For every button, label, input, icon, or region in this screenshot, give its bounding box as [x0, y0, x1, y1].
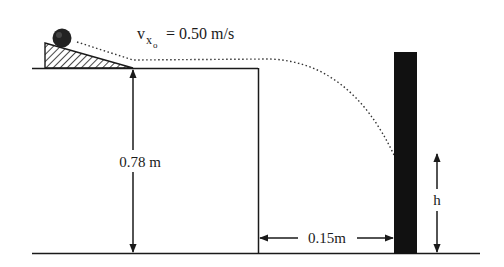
velocity-label: v x o = 0.50 m/s — [137, 25, 234, 50]
wall — [394, 52, 417, 254]
velocity-subscript: x — [146, 33, 152, 47]
impact-height-dimension: h — [433, 154, 441, 252]
projectile-diagram: 0.78 m 0.15m h v x o = 0.50 m/s — [0, 0, 504, 267]
distance-label: 0.15m — [308, 230, 346, 246]
ball — [53, 29, 72, 48]
distance-dimension: 0.15m — [260, 230, 393, 246]
velocity-value: = 0.50 m/s — [166, 25, 234, 42]
velocity-subsubscript: o — [153, 40, 158, 50]
table-height-dimension: 0.78 m — [119, 70, 161, 252]
h-label: h — [433, 192, 441, 208]
table-height-label: 0.78 m — [119, 154, 161, 170]
trajectory — [77, 42, 394, 155]
velocity-symbol: v — [137, 25, 145, 42]
